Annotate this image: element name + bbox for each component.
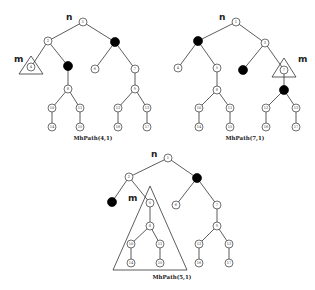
svg-text:17: 17 xyxy=(294,125,299,129)
svg-text:1: 1 xyxy=(82,20,84,24)
node-6-black xyxy=(239,66,248,75)
caption: MhPath(4,1) xyxy=(74,135,113,141)
tree-mhpath-7-1: n m 1 3 4 5 7 8 10 11 12 13 14 15 16 17 … xyxy=(174,12,307,141)
svg-text:13: 13 xyxy=(294,106,299,110)
node-4-black xyxy=(108,198,117,207)
svg-text:12: 12 xyxy=(264,106,269,110)
svg-text:16: 16 xyxy=(264,125,269,129)
svg-text:12: 12 xyxy=(197,242,202,246)
svg-text:11: 11 xyxy=(78,106,83,110)
node-4: 4 xyxy=(27,63,35,71)
label-m: m xyxy=(128,193,137,203)
svg-text:17: 17 xyxy=(227,261,232,265)
svg-text:1: 1 xyxy=(167,156,169,160)
svg-text:2: 2 xyxy=(128,175,130,179)
node-17: 17 xyxy=(292,123,300,131)
node-13: 13 xyxy=(292,104,300,112)
node-15: 15 xyxy=(156,259,164,267)
node-5: 5 xyxy=(146,199,154,207)
node-13: 13 xyxy=(143,104,151,112)
node-11: 11 xyxy=(76,104,84,112)
svg-text:2: 2 xyxy=(47,39,49,43)
node-7: 7 xyxy=(280,66,288,74)
svg-text:15: 15 xyxy=(228,125,233,129)
caption: MhPath(7,1) xyxy=(226,135,265,141)
tree-mhpath-5-1: n m 1 2 5 6 7 8 9 10 11 12 13 14 15 16 1… xyxy=(108,149,234,280)
node-12: 12 xyxy=(262,104,270,112)
svg-text:16: 16 xyxy=(116,125,121,129)
svg-text:14: 14 xyxy=(197,125,202,129)
svg-text:10: 10 xyxy=(197,106,202,110)
node-3-black xyxy=(193,174,202,183)
svg-text:16: 16 xyxy=(197,261,202,265)
node-6: 6 xyxy=(172,201,180,209)
node-14: 14 xyxy=(48,123,56,131)
node-8: 8 xyxy=(146,222,154,230)
node-5: 5 xyxy=(213,64,221,72)
label-n: n xyxy=(66,12,72,22)
node-8: 8 xyxy=(64,85,72,93)
node-17: 17 xyxy=(225,259,233,267)
node-16: 16 xyxy=(195,259,203,267)
node-1: 1 xyxy=(232,18,240,26)
svg-text:13: 13 xyxy=(145,106,150,110)
svg-text:15: 15 xyxy=(78,125,83,129)
tree-diagrams: n m 1 2 4 6 7 8 9 10 11 12 13 14 15 16 1… xyxy=(0,0,315,290)
node-16: 16 xyxy=(262,123,270,131)
node-15: 15 xyxy=(76,123,84,131)
svg-text:17: 17 xyxy=(145,125,150,129)
node-7: 7 xyxy=(213,201,221,209)
label-m: m xyxy=(14,54,23,64)
node-17: 17 xyxy=(143,123,151,131)
svg-text:11: 11 xyxy=(228,106,233,110)
label-n: n xyxy=(219,12,225,22)
node-14: 14 xyxy=(127,259,135,267)
node-12: 12 xyxy=(114,104,122,112)
node-3: 3 xyxy=(261,39,269,47)
caption: MhPath(5,1) xyxy=(153,274,192,280)
svg-text:10: 10 xyxy=(50,106,55,110)
svg-text:14: 14 xyxy=(50,125,55,129)
node-11: 11 xyxy=(156,240,164,248)
node-10: 10 xyxy=(127,240,135,248)
node-9: 9 xyxy=(213,222,221,230)
svg-text:14: 14 xyxy=(129,261,134,265)
svg-text:10: 10 xyxy=(129,242,134,246)
node-16: 16 xyxy=(114,123,122,131)
node-10: 10 xyxy=(48,104,56,112)
node-9-black xyxy=(280,86,289,95)
node-11: 11 xyxy=(226,104,234,112)
node-5-black xyxy=(64,62,73,71)
svg-text:1: 1 xyxy=(235,20,237,24)
label-n: n xyxy=(151,149,157,159)
node-2-black xyxy=(194,37,203,46)
label-m: m xyxy=(298,54,307,64)
node-1: 1 xyxy=(164,154,172,162)
node-15: 15 xyxy=(226,123,234,131)
node-9: 9 xyxy=(131,85,139,93)
node-6: 6 xyxy=(91,65,99,73)
tree-mhpath-4-1: n m 1 2 4 6 7 8 9 10 11 12 13 14 15 16 1… xyxy=(14,12,151,141)
node-2: 2 xyxy=(44,37,52,45)
svg-text:13: 13 xyxy=(227,242,232,246)
node-1: 1 xyxy=(79,18,87,26)
node-7: 7 xyxy=(131,65,139,73)
node-12: 12 xyxy=(195,240,203,248)
node-3-black xyxy=(111,38,120,47)
node-14: 14 xyxy=(195,123,203,131)
node-2: 2 xyxy=(125,173,133,181)
svg-text:15: 15 xyxy=(158,261,163,265)
node-8: 8 xyxy=(213,86,221,94)
node-10: 10 xyxy=(195,104,203,112)
node-4: 4 xyxy=(174,64,182,72)
node-13: 13 xyxy=(225,240,233,248)
svg-text:12: 12 xyxy=(116,106,121,110)
svg-text:11: 11 xyxy=(158,242,163,246)
